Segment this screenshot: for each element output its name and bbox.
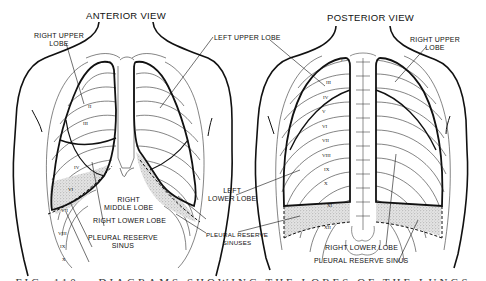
figure-caption-partial: FIG. 110.—DIAGRAMS SHOWING THE LOBES OF … — [0, 276, 486, 281]
rib-numeral: V — [322, 109, 326, 114]
label-right-lower-lobe-anterior: RIGHT LOWER LOBE — [93, 217, 166, 225]
label-line-1: RIGHT — [104, 196, 153, 204]
label-line-2: MIDDLE LOBE — [104, 204, 153, 212]
rib-numeral: X — [62, 257, 66, 262]
posterior-view-title: POSTERIOR VIEW — [327, 14, 414, 22]
rib-numeral: II — [88, 104, 91, 109]
label-line-1: PLEURAL RESERVE — [88, 234, 158, 242]
rib-numeral: X — [324, 181, 328, 186]
label-pleural-reserve-sinus-posterior: PLEURAL RESERVE SINUS — [314, 257, 408, 265]
anterior-right-pleural-sinus — [50, 164, 110, 214]
rib-numeral: IX — [324, 167, 329, 172]
posterior-view — [236, 26, 468, 270]
label-line-2: LOWER LOBE — [208, 195, 256, 203]
rib-numeral: IV — [323, 95, 328, 100]
label-line-1: RIGHT UPPER — [410, 36, 460, 44]
rib-numeral: VII — [61, 208, 68, 213]
rib-numeral: XI — [327, 203, 332, 208]
posterior-leader-lines — [236, 40, 426, 262]
label-line-2: SINUS — [88, 242, 158, 250]
rib-numeral: IV — [74, 165, 79, 170]
label-line-2: LOBE — [34, 40, 84, 48]
lung-lobes-figure: ANTERIOR VIEW RIGHT UPPER LOBE LEFT UPPE… — [0, 0, 486, 281]
label-pleural-reserve-sinuses: PLEURAL RESERVE SINUSES — [206, 231, 268, 247]
rib-numeral: VII — [322, 138, 329, 143]
label-line-1: LEFT — [208, 187, 256, 195]
posterior-right-pleural-sinus — [284, 202, 350, 238]
label-left-lower-lobe: LEFT LOWER LOBE — [208, 187, 256, 203]
rib-numeral: VI — [68, 187, 73, 192]
rib-numeral: I — [341, 57, 343, 62]
label-pleural-reserve-sinus-anterior: PLEURAL RESERVE SINUS — [88, 234, 158, 250]
label-right-lower-lobe-posterior: RIGHT LOWER LOBE — [325, 244, 398, 252]
rib-numeral: VI — [322, 124, 327, 129]
label-right-upper-lobe-anterior: RIGHT UPPER LOBE — [34, 32, 84, 48]
rib-numeral: III — [326, 80, 331, 85]
label-right-upper-lobe-posterior: RIGHT UPPER LOBE — [410, 36, 460, 52]
rib-numeral: VIII — [322, 153, 331, 158]
label-line-1: RIGHT UPPER — [34, 32, 84, 40]
anterior-view-title: ANTERIOR VIEW — [86, 12, 166, 20]
label-line-2: SINUSES — [206, 239, 268, 247]
label-left-upper-lobe-anterior: LEFT UPPER LOBE — [214, 34, 281, 42]
rib-numeral: IX — [60, 244, 65, 249]
rib-numeral: VIII — [58, 231, 67, 236]
rib-numeral: III — [83, 121, 88, 126]
rib-numeral: XII — [324, 225, 331, 230]
label-right-middle-lobe: RIGHT MIDDLE LOBE — [104, 196, 153, 212]
label-line-2: LOBE — [410, 44, 460, 52]
label-line-1: PLEURAL RESERVE — [206, 231, 268, 239]
